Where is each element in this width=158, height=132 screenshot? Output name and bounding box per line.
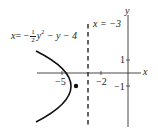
equation-label: x= −12y2 − y − 4: [11, 29, 77, 44]
tick-label-x-neg2: −2: [96, 77, 107, 87]
parabola-curve: [36, 51, 71, 122]
tick-label-y-pos1: 1: [120, 55, 125, 65]
x-axis-label: x: [143, 67, 147, 77]
parabola-diagram: [0, 0, 158, 132]
equation-fraction: 12: [30, 29, 36, 44]
tick-label-y-neg1: −1: [114, 82, 125, 92]
tick-label-x-neg5: −5: [55, 77, 66, 87]
equation-rest: − y − 4: [44, 30, 77, 41]
fraction-denominator: 2: [30, 37, 36, 44]
directrix-label: x = −3: [93, 19, 121, 29]
focus-point: [74, 84, 78, 88]
y-axis-label: y: [125, 6, 129, 16]
equation-eq: = −: [15, 30, 29, 41]
